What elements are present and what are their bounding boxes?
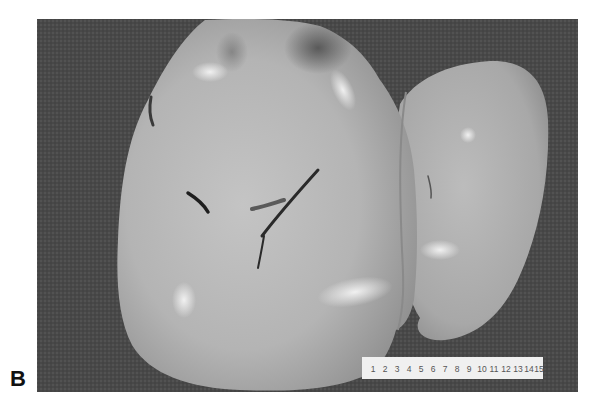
figure: 1 2 3 4 5 6 7 8 9 10 11 12 13 14 15 B [0,0,596,419]
highlight [172,282,196,318]
ruler-tick: 2 [383,364,388,374]
scale-ruler: 1 2 3 4 5 6 7 8 9 10 11 12 13 14 15 [362,357,544,379]
highlight [192,62,228,82]
ruler-tick: 6 [431,364,436,374]
highlight [420,240,460,260]
ruler-tick: 9 [467,364,472,374]
ruler-tick: 12 [501,364,511,374]
ruler-tick: 14 [524,364,534,374]
ruler-tick: 4 [407,364,412,374]
ruler-tick: 11 [490,364,499,374]
ruler-tick: 1 [371,364,376,374]
ruler-tick: 3 [395,364,400,374]
ruler-tick: 7 [443,364,448,374]
panel-label: B [10,368,26,390]
dark-region [284,22,352,74]
ruler-tick: 13 [513,364,523,374]
ruler-tick: 15 [534,364,544,374]
specimen-photo: 1 2 3 4 5 6 7 8 9 10 11 12 13 14 15 [0,0,596,419]
ruler-tick: 5 [419,364,424,374]
highlight [460,127,476,143]
ruler-tick: 10 [477,364,487,374]
ruler-tick: 8 [455,364,460,374]
